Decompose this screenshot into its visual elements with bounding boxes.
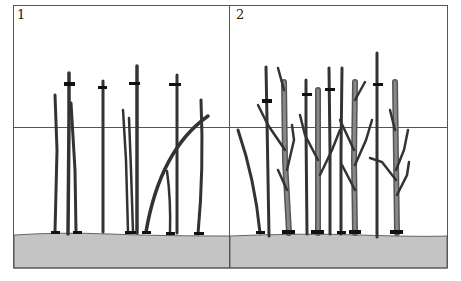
panel-2-stems — [238, 53, 409, 237]
pruning-diagram — [0, 0, 461, 281]
ground — [14, 6, 448, 269]
panel-1-frame — [14, 6, 230, 128]
panel-1-stems — [55, 66, 208, 234]
